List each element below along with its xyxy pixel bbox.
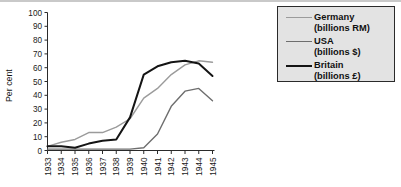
legend-item-name: USA	[314, 36, 361, 47]
x-tick-label: 1942	[167, 157, 176, 176]
x-tick-label: 1941	[154, 157, 163, 176]
x-tick-label: 1933	[44, 157, 53, 176]
y-axis-title: Per cent	[4, 69, 14, 102]
x-tick-label: 1945	[209, 157, 218, 176]
chart-legend-items: Germany(billions RM)USA(billions $)Brita…	[284, 12, 392, 78]
chart-figure: 0102030405060708090100 19331934193519361…	[0, 0, 401, 187]
legend-item-britain: Britain(billions £)	[284, 60, 392, 81]
x-tick-label: 1936	[85, 157, 94, 176]
legend-item-name: Germany	[314, 12, 370, 23]
legend-line-swatch-icon	[284, 60, 314, 72]
x-tick-label: 1934	[57, 157, 66, 176]
legend-item-unit: (billions RM)	[314, 23, 370, 34]
legend-item-unit: (billions £)	[314, 71, 361, 82]
series-line-germany	[48, 61, 213, 147]
x-tick-label: 1935	[71, 157, 80, 176]
y-tick-label: 90	[33, 22, 43, 31]
y-tick-label: 70	[33, 50, 43, 59]
legend-item-unit: (billions $)	[314, 47, 361, 58]
legend-line-swatch-icon	[284, 12, 314, 24]
legend-item-label: Britain(billions £)	[314, 60, 361, 81]
y-tick-label: 80	[33, 36, 43, 45]
x-tick-label: 1943	[181, 157, 190, 176]
y-tick-label: 100	[28, 9, 42, 18]
y-tick-label: 60	[33, 64, 43, 73]
x-tick-label: 1937	[99, 157, 108, 176]
legend-item-label: Germany(billions RM)	[314, 12, 370, 33]
legend-item-label: USA(billions $)	[314, 36, 361, 57]
y-tick-label: 40	[33, 91, 43, 100]
legend-line-swatch-icon	[284, 36, 314, 48]
series-line-britain	[48, 61, 213, 148]
x-tick-label: 1944	[195, 157, 204, 176]
y-tick-label: 50	[33, 78, 43, 87]
x-tick-label: 1938	[112, 157, 121, 176]
legend-item-usa: USA(billions $)	[284, 36, 392, 57]
x-tick-label: 1940	[140, 157, 149, 176]
legend-item-germany: Germany(billions RM)	[284, 12, 392, 33]
x-axis: 1933193419351936193719381939194019411942…	[44, 151, 218, 176]
data-series-group	[48, 61, 213, 149]
y-tick-label: 30	[33, 105, 43, 114]
figure-top-border	[0, 0, 401, 2]
y-tick-label: 0	[37, 147, 42, 156]
legend-item-name: Britain	[314, 60, 361, 71]
y-tick-label: 10	[33, 133, 43, 142]
x-tick-label: 1939	[126, 157, 135, 176]
y-tick-label: 20	[33, 119, 43, 128]
y-axis: 0102030405060708090100	[28, 9, 47, 156]
